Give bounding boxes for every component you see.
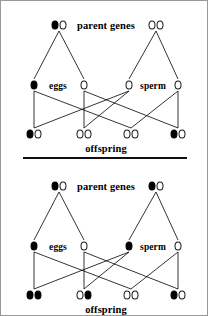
allele-recessive-icon <box>175 242 182 251</box>
parent-genotype-mother <box>52 182 67 191</box>
meiosis-link <box>59 31 84 79</box>
allele-recessive-icon <box>60 182 67 191</box>
figure-frame: parent geneseggsspermoffspring parent ge… <box>0 0 208 316</box>
allele-recessive-icon <box>60 21 67 30</box>
allele-recessive-icon <box>179 130 186 139</box>
allele-recessive-icon <box>157 21 164 30</box>
meiosis-link <box>129 31 156 79</box>
offspring-genotype-offspring-1 <box>27 291 42 300</box>
panel-bottom-stage: parent geneseggsspermoffspring <box>1 164 208 316</box>
allele-recessive-icon <box>35 130 42 139</box>
offspring-genotype-offspring-2 <box>77 291 92 300</box>
offspring-genotype-offspring-3 <box>124 130 139 139</box>
allele-recessive-icon <box>81 81 88 90</box>
panel-top-stage: parent geneseggsspermoffspring <box>1 3 208 155</box>
label-eggs: eggs <box>49 242 67 252</box>
fertilization-link <box>84 252 178 289</box>
fertilization-link <box>84 252 129 289</box>
offspring-genotype-offspring-1 <box>27 130 42 139</box>
allele-recessive-icon <box>175 81 182 90</box>
label-sperm: sperm <box>140 81 166 91</box>
label-offspring: offspring <box>85 143 127 154</box>
label-offspring: offspring <box>85 304 127 315</box>
allele-recessive-icon <box>149 21 156 30</box>
parent-genotype-father <box>149 182 164 191</box>
offspring-genotype-offspring-2 <box>77 130 92 139</box>
allele-recessive-icon <box>132 291 139 300</box>
allele-dominant-icon <box>31 242 38 251</box>
fertilization-link <box>84 91 178 128</box>
gamete-egg-1 <box>31 242 38 251</box>
allele-dominant-icon <box>35 291 42 300</box>
offspring-genotype-offspring-3 <box>124 291 139 300</box>
fertilization-link <box>84 91 129 128</box>
gamete-sperm-1 <box>126 81 133 90</box>
meiosis-link <box>34 31 59 79</box>
allele-dominant-icon <box>171 291 178 300</box>
parent-genotype-father <box>149 21 164 30</box>
allele-recessive-icon <box>77 291 84 300</box>
allele-dominant-icon <box>52 21 59 30</box>
label-parent-genes: parent genes <box>77 20 135 31</box>
meiosis-link <box>129 192 156 240</box>
allele-dominant-icon <box>52 182 59 191</box>
allele-dominant-icon <box>149 182 156 191</box>
gamete-sperm-2 <box>175 242 182 251</box>
gamete-egg-2 <box>81 81 88 90</box>
allele-dominant-icon <box>171 130 178 139</box>
allele-recessive-icon <box>132 130 139 139</box>
gamete-sperm-2 <box>175 81 182 90</box>
allele-recessive-icon <box>157 182 164 191</box>
panel-top-cross: parent geneseggsspermoffspring <box>1 3 208 155</box>
allele-dominant-icon <box>85 291 92 300</box>
meiosis-link <box>34 192 59 240</box>
allele-recessive-icon <box>81 242 88 251</box>
fertilization-link <box>131 252 178 289</box>
allele-recessive-icon <box>126 81 133 90</box>
panel-bottom-cross: parent geneseggsspermoffspring <box>1 164 208 315</box>
label-sperm: sperm <box>140 242 166 252</box>
allele-dominant-icon <box>27 130 34 139</box>
gamete-egg-1 <box>31 81 38 90</box>
allele-recessive-icon <box>179 291 186 300</box>
offspring-genotype-offspring-4 <box>171 291 186 300</box>
offspring-genotype-offspring-4 <box>171 130 186 139</box>
fertilization-link <box>131 91 178 128</box>
gamete-sperm-1 <box>126 242 133 251</box>
parent-genotype-mother <box>52 21 67 30</box>
gamete-egg-2 <box>81 242 88 251</box>
allele-dominant-icon <box>126 242 133 251</box>
meiosis-link <box>59 192 84 240</box>
panel-divider <box>23 157 187 159</box>
label-parent-genes: parent genes <box>77 181 135 192</box>
allele-dominant-icon <box>27 291 34 300</box>
meiosis-link <box>156 192 178 240</box>
label-eggs: eggs <box>49 81 67 91</box>
allele-recessive-icon <box>124 291 131 300</box>
allele-recessive-icon <box>85 130 92 139</box>
allele-recessive-icon <box>124 130 131 139</box>
allele-dominant-icon <box>31 81 38 90</box>
meiosis-link <box>156 31 178 79</box>
allele-recessive-icon <box>77 130 84 139</box>
